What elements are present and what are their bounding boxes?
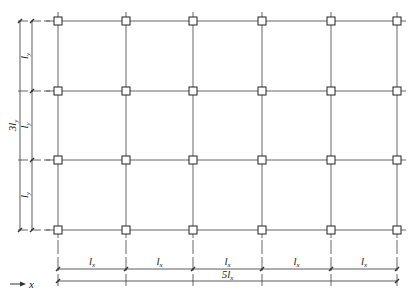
x-axis-arrow: x [10,278,34,290]
column-marker [54,87,62,95]
column-marker [393,226,401,234]
column-marker [54,226,62,234]
column-marker [54,156,62,164]
y-total-label: 3ly [6,119,20,133]
column-marker [258,226,266,234]
column-marker [122,87,130,95]
column-marker [258,156,266,164]
x-span-label: lx [89,255,96,269]
column-marker [54,17,62,25]
column-marker [122,156,130,164]
x-span-label: lx [361,255,368,269]
column-marker [189,17,197,25]
x-span-label: lx [293,255,300,269]
x-span-label: lx [156,255,163,269]
column-marker [189,156,197,164]
grid-lines [18,12,406,286]
column-marker [327,87,335,95]
column-marker [122,17,130,25]
column-marker [258,87,266,95]
x-axis-arrow-head [20,282,26,287]
column-marker [189,226,197,234]
column-marker [122,226,130,234]
column-marker [189,87,197,95]
column-marker [393,156,401,164]
x-span-label: lx [224,255,231,269]
column-marker [393,17,401,25]
column-markers [54,17,401,234]
column-marker [327,226,335,234]
dimension-lines [18,19,399,283]
x-axis-label: x [28,278,34,290]
column-marker [393,87,401,95]
column-marker [327,17,335,25]
column-marker [327,156,335,164]
structural-grid-diagram: lxlxlxlxlx5lxlylyly3ly x [0,0,412,297]
x-total-label: 5lx [222,268,235,282]
column-marker [258,17,266,25]
